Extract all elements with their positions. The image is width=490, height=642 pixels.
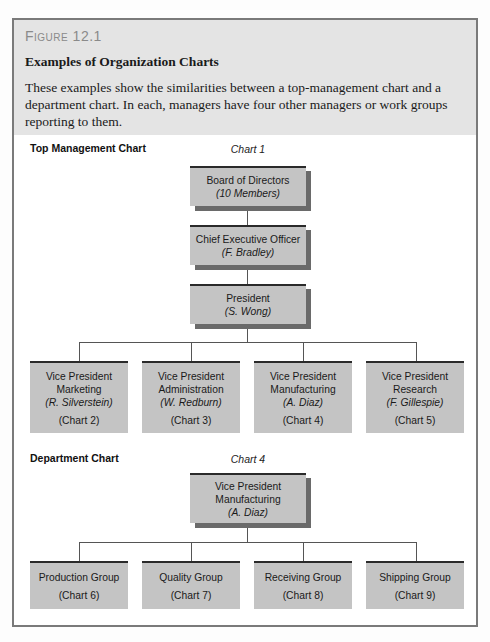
- connector-line: [416, 542, 417, 561]
- node-name: (A. Diaz): [254, 396, 352, 409]
- node-title: President: [190, 292, 306, 305]
- node-name: (W. Redburn): [142, 396, 240, 409]
- node-chart-ref: (Chart 9): [366, 589, 464, 602]
- node-title: Vice President: [190, 480, 306, 493]
- org-node-vp-research: Vice President Research (F. Gillespie) (…: [366, 361, 464, 433]
- node-dept: Administration: [142, 383, 240, 396]
- node-dept: Marketing: [30, 383, 128, 396]
- figure-frame: Figure 12.1 Examples of Organization Cha…: [12, 18, 478, 627]
- node-chart-ref: (Chart 6): [30, 589, 128, 602]
- connector-line: [79, 342, 417, 343]
- node-chart-ref: (Chart 2): [30, 414, 128, 427]
- org-node-shipping-group: Shipping Group (Chart 9): [366, 561, 464, 609]
- node-dept: Research: [366, 383, 464, 396]
- org-node-board: Board of Directors (10 Members): [190, 166, 306, 206]
- connector-line: [303, 542, 304, 561]
- node-name: (10 Members): [190, 187, 306, 200]
- node-name: (A. Diaz): [190, 506, 306, 519]
- node-dept: Manufacturing: [190, 493, 306, 506]
- node-name: (S. Wong): [190, 305, 306, 318]
- org-node-receiving-group: Receiving Group (Chart 8): [254, 561, 352, 609]
- connector-line: [247, 324, 248, 343]
- dept-chart-section-label: Department Chart: [30, 452, 119, 464]
- connector-line: [79, 342, 80, 361]
- node-dept: Manufacturing: [254, 383, 352, 396]
- org-node-dept-head: Vice President Manufacturing (A. Diaz): [190, 473, 306, 523]
- dept-chart-label: Chart 4: [190, 453, 306, 465]
- org-node-vp-marketing: Vice President Marketing (R. Silverstein…: [30, 361, 128, 433]
- node-title: Production Group: [30, 571, 128, 584]
- figure-title: Examples of Organization Charts: [25, 54, 219, 70]
- connector-line: [247, 265, 248, 285]
- node-title: Board of Directors: [190, 174, 306, 187]
- node-title: Shipping Group: [366, 571, 464, 584]
- connector-line: [416, 342, 417, 361]
- node-chart-ref: (Chart 8): [254, 589, 352, 602]
- node-title: Receiving Group: [254, 571, 352, 584]
- node-title: Quality Group: [142, 571, 240, 584]
- figure-label: Figure 12.1: [25, 28, 102, 44]
- node-name: (F. Gillespie): [366, 396, 464, 409]
- node-name: (R. Silverstein): [30, 396, 128, 409]
- node-chart-ref: (Chart 5): [366, 414, 464, 427]
- connector-line: [303, 342, 304, 361]
- connector-line: [79, 542, 417, 543]
- node-chart-ref: (Chart 4): [254, 414, 352, 427]
- node-title: Vice President: [142, 370, 240, 383]
- node-name: (F. Bradley): [190, 246, 306, 259]
- connector-line: [247, 206, 248, 226]
- node-title: Chief Executive Officer: [190, 233, 306, 246]
- node-title: Vice President: [30, 370, 128, 383]
- org-node-vp-manufacturing: Vice President Manufacturing (A. Diaz) (…: [254, 361, 352, 433]
- figure-header: Figure 12.1 Examples of Organization Cha…: [14, 20, 476, 135]
- connector-line: [247, 523, 248, 543]
- org-node-production-group: Production Group (Chart 6): [30, 561, 128, 609]
- top-chart-section-label: Top Management Chart: [30, 142, 146, 154]
- node-chart-ref: (Chart 7): [142, 589, 240, 602]
- node-title: Vice President: [366, 370, 464, 383]
- connector-line: [191, 542, 192, 561]
- org-node-quality-group: Quality Group (Chart 7): [142, 561, 240, 609]
- figure-description: These examples show the similarities bet…: [25, 79, 465, 130]
- connector-line: [79, 542, 80, 561]
- node-title: Vice President: [254, 370, 352, 383]
- org-node-ceo: Chief Executive Officer (F. Bradley): [190, 225, 306, 265]
- top-chart-label: Chart 1: [190, 143, 306, 155]
- org-node-vp-administration: Vice President Administration (W. Redbur…: [142, 361, 240, 433]
- node-chart-ref: (Chart 3): [142, 414, 240, 427]
- connector-line: [191, 342, 192, 361]
- org-node-president: President (S. Wong): [190, 284, 306, 324]
